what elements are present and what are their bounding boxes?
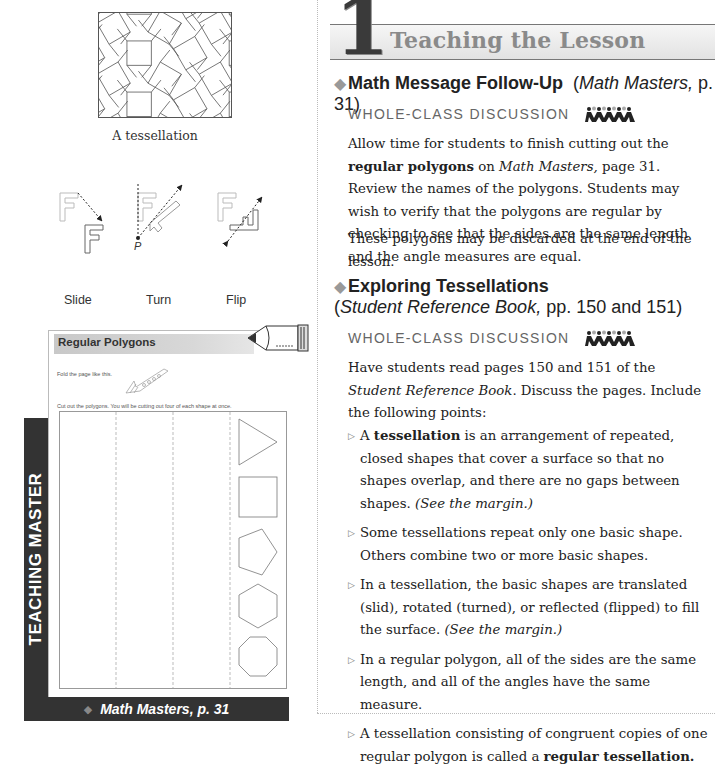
tessellation-tile: [127, 92, 151, 116]
flip-label: Flip: [226, 293, 246, 307]
triangle-bullet-icon: ▷: [348, 574, 355, 597]
tessellation-edge: [121, 32, 131, 44]
tessellation-edge: [197, 58, 207, 70]
tessellation-edge: [118, 50, 128, 62]
margin-divider: [317, 0, 318, 713]
turn-label: Turn: [146, 293, 171, 307]
tessellation-edge: [211, 44, 221, 56]
triangle-bullet-icon: ▷: [348, 649, 355, 672]
tessellation-figure: [98, 12, 232, 118]
cut-instruction: Cut out the polygons. You will be cuttin…: [57, 403, 232, 409]
tessellation-edge: [160, 50, 170, 62]
diamond-bullet-icon: ◆: [334, 75, 346, 92]
list-item: ▷In a regular polygon, all of the sides …: [348, 649, 710, 717]
tessellation-edge: [160, 101, 170, 113]
tessellation-edge: [138, 71, 148, 83]
tessellation-tile: [174, 36, 207, 69]
diamond-bullet-icon: ◆: [334, 278, 346, 295]
tessellation-tile: [127, 41, 151, 65]
slide-label: Slide: [64, 293, 92, 307]
tessellation-caption: A tessellation: [0, 128, 310, 143]
tessellation-edge: [127, 65, 137, 77]
tessellation-edge: [186, 19, 196, 31]
whole-class-people-icon: [585, 106, 635, 122]
flip-figure: [218, 193, 262, 241]
fold-instruction: Fold the page like this.: [57, 371, 112, 377]
list-item: ▷A tessellation consisting of congruent …: [348, 723, 710, 768]
turn-point-label: P: [134, 240, 142, 252]
transformations-figure: P: [50, 183, 280, 278]
tessellation-edge: [127, 14, 137, 26]
triangle-bullet-icon: ▷: [348, 425, 355, 448]
tessellation-edge: [190, 62, 200, 74]
tessellation-edge: [142, 14, 152, 26]
tessellation-edge: [211, 95, 221, 107]
teaching-master-footer-text: Math Masters, p. 31: [100, 701, 229, 717]
tessellation-edge: [98, 109, 105, 118]
folded-paper-figure: [122, 365, 172, 397]
activity-label: WHOLE-CLASS DISCUSSION: [348, 106, 635, 122]
slide-figure: [60, 193, 103, 253]
tessellation-edge: [109, 95, 119, 107]
tessellation-edge: [195, 76, 205, 88]
cut-out-polygons-area: [59, 411, 287, 689]
paragraph-discard-note: These polygons may be discarded at the e…: [348, 228, 708, 273]
turn-figure: [136, 183, 182, 240]
tessellation-edge: [118, 101, 128, 113]
tessellation-edge: [220, 101, 230, 113]
tessellation-edge: [220, 50, 230, 62]
paragraph-srb-intro: Have students read pages 150 and 151 of …: [348, 357, 708, 425]
tessellation-edge: [195, 24, 205, 36]
list-item: ▷Some tessellations repeat only one basi…: [348, 522, 710, 567]
tessellation-tile: [174, 88, 207, 118]
lesson-part-number: 1: [335, 0, 389, 66]
tessellation-edge: [109, 44, 119, 56]
discussion-points-list: ▷A tessellation is an arrangement of rep…: [348, 425, 710, 768]
section-heading-exploring-tessellations: ◆Exploring Tessellations (Student Refere…: [334, 276, 682, 318]
tessellation-edge: [186, 70, 196, 82]
activity-label: WHOLE-CLASS DISCUSSION: [348, 330, 635, 346]
lesson-header-title: Teaching the Lesson: [390, 27, 645, 53]
triangle-bullet-icon: ▷: [348, 522, 355, 545]
tessellation-edge: [121, 83, 131, 95]
tessellation-edge: [223, 83, 232, 95]
tessellation-edge: [138, 20, 148, 32]
list-item: ▷In a tessellation, the basic shapes are…: [348, 574, 710, 642]
tessellation-edge: [172, 74, 182, 86]
tessellation-edge: [172, 23, 182, 35]
tessellation-edge: [223, 32, 232, 44]
diamond-icon: ◆: [84, 703, 92, 716]
triangle-bullet-icon: ▷: [348, 723, 355, 746]
pencil-icon: [246, 322, 310, 354]
teaching-master-side-label: TEACHING MASTER: [24, 418, 48, 700]
list-item: ▷A tessellation is an arrangement of rep…: [348, 425, 710, 515]
teaching-master-footer: ◆ Math Masters, p. 31: [24, 697, 289, 721]
tessellation-edge: [142, 65, 152, 77]
whole-class-people-icon: [585, 330, 635, 346]
teaching-master-title: Regular Polygons: [58, 336, 156, 348]
